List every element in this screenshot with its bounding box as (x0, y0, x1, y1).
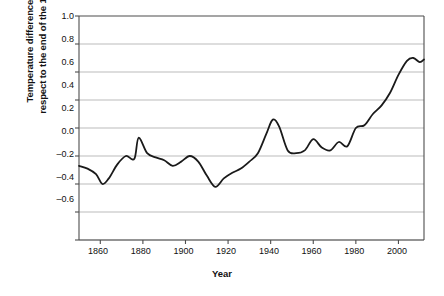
temperature-anomaly-chart: Temperature difference (°C) with respect… (0, 0, 444, 296)
series-line (79, 58, 424, 187)
x-tick-label: 1880 (131, 246, 151, 256)
x-tick-label: 1860 (88, 246, 108, 256)
x-tick-label: 1900 (173, 246, 193, 256)
x-tick-label: 2000 (387, 246, 407, 256)
x-axis-label: Year (0, 268, 444, 279)
x-tick-label: 1940 (259, 246, 279, 256)
x-tick-label: 1980 (344, 246, 364, 256)
x-tick-label: 1960 (302, 246, 322, 256)
x-tick-label: 1920 (216, 246, 236, 256)
